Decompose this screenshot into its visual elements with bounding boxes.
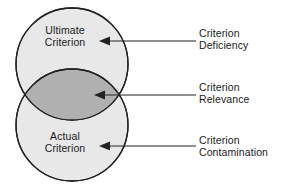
criterion-venn-diagram: Ultimate Criterion Actual Criterion Crit… [0,0,283,190]
criterion-deficiency-line1: Criterion [199,27,248,39]
criterion-relevance-label: Criterion Relevance [199,81,250,105]
criterion-deficiency-label: Criterion Deficiency [199,27,248,51]
criterion-contamination-line2: Contamination [199,146,268,158]
criterion-contamination-label: Criterion Contamination [199,134,268,158]
criterion-contamination-line1: Criterion [199,134,268,146]
ultimate-criterion-label-line1: Ultimate [26,24,104,36]
ultimate-criterion-label-line2: Criterion [26,36,104,48]
criterion-relevance-line2: Relevance [199,93,250,105]
actual-criterion-label-line1: Actual [26,130,104,142]
criterion-relevance-line1: Criterion [199,81,250,93]
actual-criterion-label-line2: Criterion [26,142,104,154]
actual-criterion-label: Actual Criterion [26,130,104,154]
criterion-deficiency-line2: Deficiency [199,39,248,51]
ultimate-criterion-label: Ultimate Criterion [26,24,104,48]
